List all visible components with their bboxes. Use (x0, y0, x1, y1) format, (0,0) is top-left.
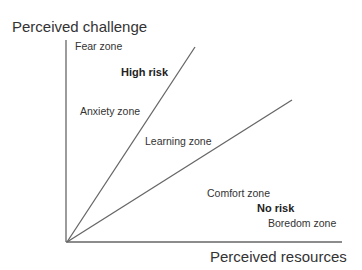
fear-zone-label: Fear zone (75, 41, 122, 52)
learning-zone-label: Learning zone (145, 136, 212, 147)
no-risk-label: No risk (257, 203, 294, 214)
boredom-zone-label: Boredom zone (268, 218, 336, 229)
x-axis-label: Perceived resources (210, 249, 347, 264)
comfort-zone-label: Comfort zone (207, 188, 270, 199)
anxiety-zone-label: Anxiety zone (80, 106, 140, 117)
high-risk-label: High risk (121, 67, 168, 78)
low-risk-boundary-line (67, 100, 292, 242)
y-axis-label: Perceived challenge (12, 19, 147, 34)
